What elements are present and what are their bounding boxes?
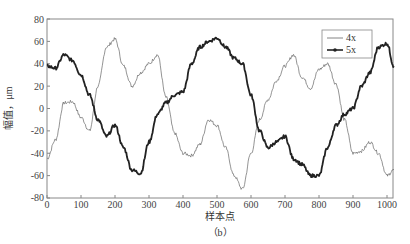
x-tick-label: 900 [346, 199, 361, 210]
x-tick-label: 0 [45, 199, 50, 210]
series-line-4x [47, 38, 394, 190]
x-tick-label: 300 [142, 199, 157, 210]
x-tick-label: 800 [312, 199, 327, 210]
x-tick-label: 400 [176, 199, 191, 210]
y-axis-label: 幅值，μm [2, 86, 14, 129]
x-axis-label: 样本点 [205, 210, 235, 222]
series-line-5x [47, 38, 394, 178]
legend: 4x 5x [322, 30, 372, 58]
y-tick-label: -40 [31, 148, 44, 159]
x-tick-label: 100 [74, 199, 89, 210]
y-tick-label: 80 [34, 14, 44, 25]
x-tick-label: 600 [244, 199, 259, 210]
x-tick-label: 700 [278, 199, 293, 210]
line-chart: -80-60-40-20020406080 010020030040050060… [0, 0, 410, 244]
y-tick-label: -60 [31, 170, 44, 181]
x-axis: 01002003004005006007008009001000 [45, 195, 398, 210]
x-tick-label: 200 [108, 199, 123, 210]
plot-series [47, 38, 394, 190]
legend-label-4x: 4x [346, 32, 356, 43]
legend-label-5x: 5x [346, 44, 356, 55]
y-tick-label: 20 [34, 81, 44, 92]
x-tick-label: 500 [210, 199, 225, 210]
y-tick-label: -20 [31, 125, 44, 136]
y-tick-label: -80 [31, 192, 44, 203]
y-tick-label: 60 [34, 36, 44, 47]
y-tick-label: 0 [39, 103, 44, 114]
x-tick-label: 1000 [377, 199, 397, 210]
figure-caption: （b） [208, 227, 233, 238]
y-tick-label: 40 [34, 58, 44, 69]
